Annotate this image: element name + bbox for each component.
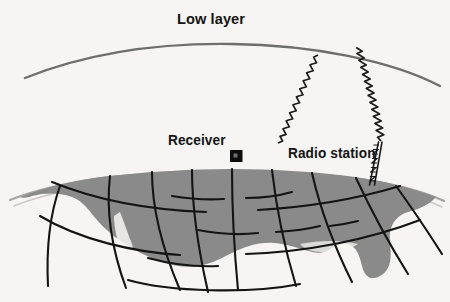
parallel-3	[128, 280, 300, 290]
radio-wave-paths	[278, 48, 384, 143]
radio-propagation-diagram: Low layer Receiver Radio station	[0, 0, 450, 302]
diagram-canvas	[0, 0, 450, 302]
wave-downlink	[278, 55, 318, 143]
receiver-dial	[234, 154, 238, 158]
low-layer-label: Low layer	[177, 10, 245, 28]
receiver-label: Receiver	[168, 132, 226, 148]
radio-station-label: Radio station	[288, 145, 376, 161]
low-layer-arc	[25, 44, 440, 86]
landmass-shape	[20, 169, 436, 278]
earth-cap	[20, 169, 436, 278]
meridian-1	[48, 186, 61, 286]
receiver-unit	[231, 151, 243, 162]
